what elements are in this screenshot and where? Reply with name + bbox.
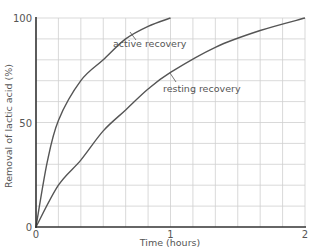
y-tick-label: 50 (19, 118, 32, 129)
x-tick-label: 0 (33, 229, 39, 240)
y-tick-label: 0 (26, 222, 32, 233)
series-labels: active recoveryresting recovery (113, 32, 241, 94)
y-axis-label: Removal of lactic acid (%) (3, 64, 14, 188)
x-tick-label: 2 (302, 229, 308, 240)
lactic-acid-recovery-chart: 012050100 Time (hours) Removal of lactic… (0, 0, 316, 252)
x-axis-label: Time (hours) (139, 237, 200, 248)
grid (36, 18, 305, 227)
active-recovery-label: active recovery (113, 38, 187, 49)
resting-recovery-label: resting recovery (163, 83, 241, 94)
y-tick-label: 100 (13, 13, 32, 24)
